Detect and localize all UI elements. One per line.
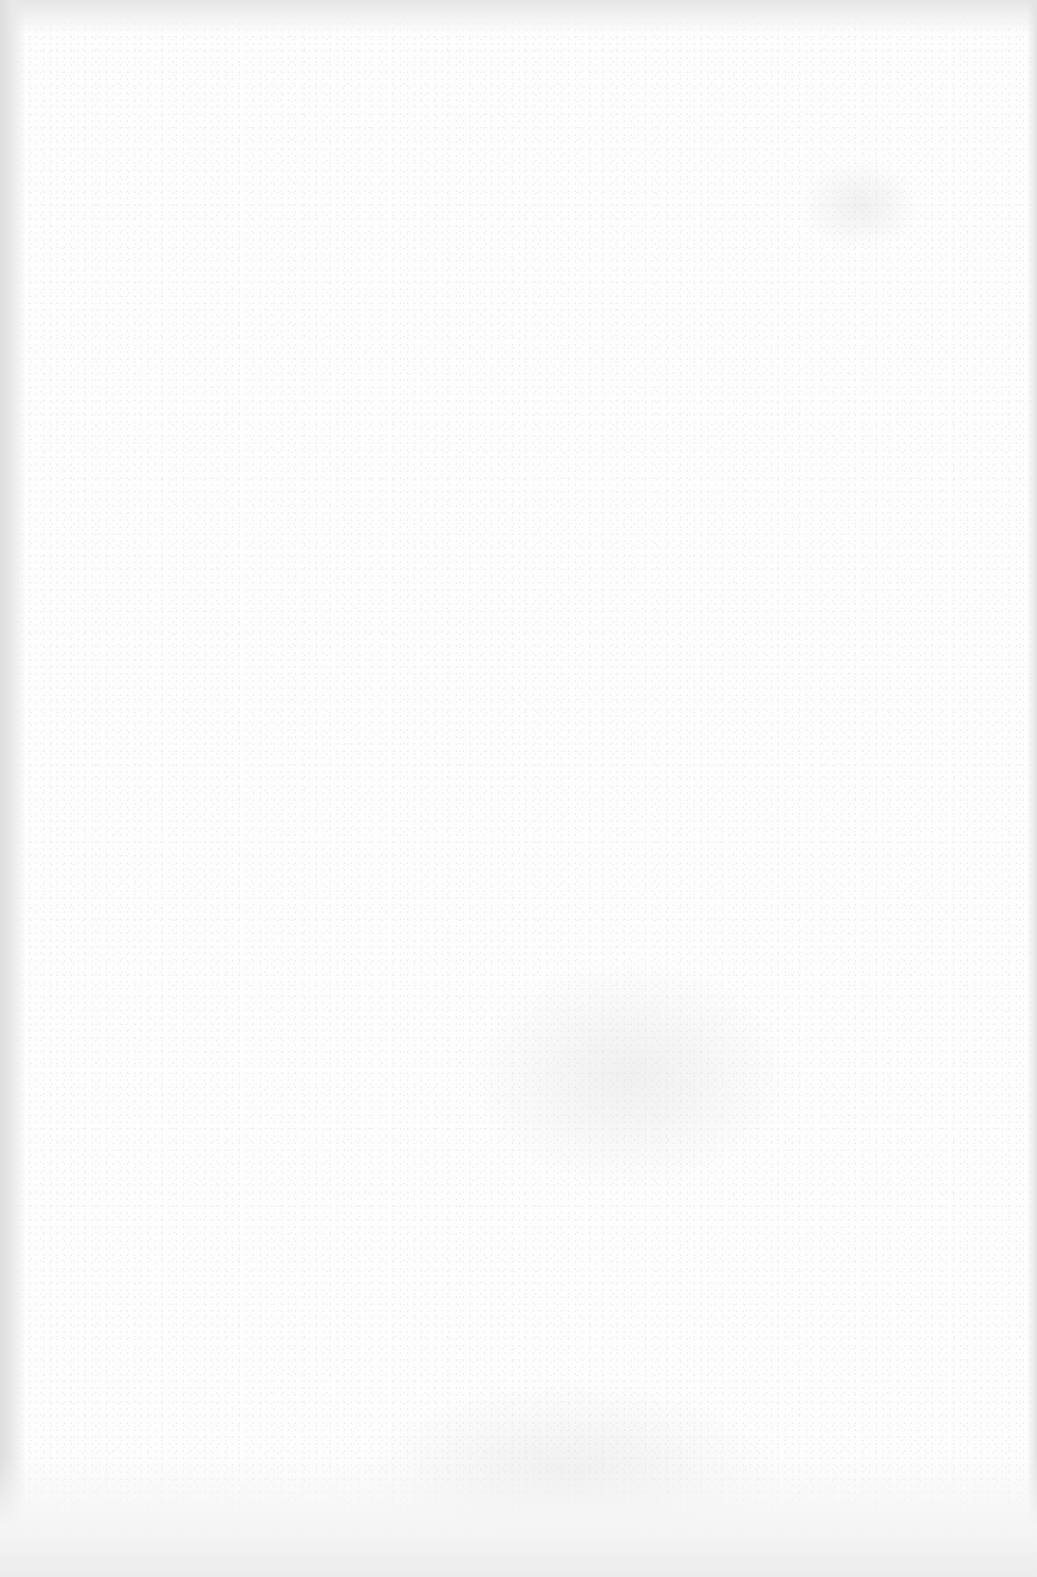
faint-smudge bbox=[800, 160, 920, 250]
scan-edge-shadow-top bbox=[0, 0, 1037, 34]
scan-edge-shadow-left bbox=[0, 0, 26, 1577]
scan-edge-shadow-bottom bbox=[0, 1457, 1037, 1577]
scan-edge-shadow-right bbox=[1027, 0, 1037, 1577]
faint-smudge bbox=[470, 960, 790, 1190]
blank-scanned-page bbox=[0, 0, 1037, 1577]
